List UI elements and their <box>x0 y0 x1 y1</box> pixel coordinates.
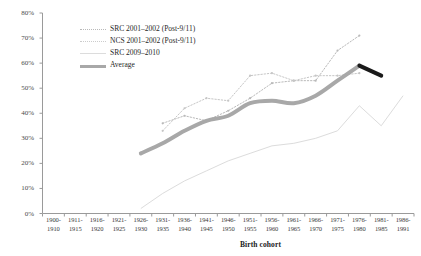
legend-item[interactable]: SRC 2001–2002 (Post-9/11) <box>80 23 196 35</box>
legend-swatch-icon <box>80 24 106 34</box>
series-marker <box>183 107 185 109</box>
chart-container: 80%70%60%50%40%30%20%10%0% 1900-19101911… <box>0 0 421 256</box>
x-tick-label: 1926-1930 <box>129 216 153 233</box>
legend-label: SRC 2001–2002 (Post-9/11) <box>110 24 195 34</box>
x-tick-label: 1966-1970 <box>304 216 328 233</box>
legend-item[interactable]: Average <box>80 59 196 71</box>
y-tick-label: 80% <box>8 9 34 17</box>
series-marker <box>227 100 229 102</box>
series-marker <box>358 72 360 74</box>
series-marker <box>271 82 273 84</box>
legend-label: NCS 2001–2002 (Post-9/11) <box>110 36 196 46</box>
series-marker <box>249 97 251 99</box>
y-tick-label: 10% <box>8 184 34 192</box>
series-marker <box>227 110 229 112</box>
x-tick-label: 1986-1991 <box>391 216 415 233</box>
legend-swatch-icon <box>80 36 106 46</box>
series-marker <box>293 80 295 82</box>
series-marker <box>162 122 164 124</box>
x-tick-label: 1921-1925 <box>107 216 131 233</box>
series-marker <box>162 130 164 132</box>
series-marker <box>336 49 338 51</box>
x-tick-label: 1900-1910 <box>41 216 65 233</box>
series-marker <box>205 97 207 99</box>
x-tick-label: 1911-1915 <box>63 216 87 233</box>
x-tick-label: 1931-1935 <box>151 216 175 233</box>
y-tick-label: 60% <box>8 59 34 67</box>
x-tick-label: 1971-1975 <box>326 216 350 233</box>
legend-swatch-icon <box>80 60 106 70</box>
series-marker <box>315 75 317 77</box>
y-tick-label: 40% <box>8 109 34 117</box>
x-tick-label: 1941-1945 <box>194 216 218 233</box>
series-marker <box>271 72 273 74</box>
x-tick-label: 1976-1980 <box>347 216 371 233</box>
x-tick-label: 1961-1965 <box>282 216 306 233</box>
legend-label: Average <box>110 60 135 70</box>
x-tick-label: 1916-1920 <box>85 216 109 233</box>
series-marker <box>315 80 317 82</box>
series-marker <box>249 75 251 77</box>
legend-item[interactable]: SRC 2009–2010 <box>80 47 196 59</box>
y-tick-label: 30% <box>8 134 34 142</box>
x-tick-label: 1946-1950 <box>216 216 240 233</box>
series-marker <box>358 34 360 36</box>
x-axis-title: Birth cohort <box>240 240 281 249</box>
legend-swatch-icon <box>80 48 106 58</box>
x-tick-label: 1951-1955 <box>238 216 262 233</box>
y-tick-label: 50% <box>8 84 34 92</box>
x-tick-label: 1936-1940 <box>173 216 197 233</box>
series-line-average <box>141 66 360 154</box>
series-marker <box>183 115 185 117</box>
legend-label: SRC 2009–2010 <box>110 48 160 58</box>
series-marker <box>336 75 338 77</box>
x-tick-label: 1981-1985 <box>369 216 393 233</box>
y-tick-label: 20% <box>8 159 34 167</box>
chart-legend: SRC 2001–2002 (Post-9/11)NCS 2001–2002 (… <box>80 23 196 71</box>
y-tick-label: 0% <box>8 210 34 218</box>
series-line-average-highlight <box>359 66 381 76</box>
legend-item[interactable]: NCS 2001–2002 (Post-9/11) <box>80 35 196 47</box>
x-tick-label: 1956-1960 <box>260 216 284 233</box>
y-tick-label: 70% <box>8 34 34 42</box>
